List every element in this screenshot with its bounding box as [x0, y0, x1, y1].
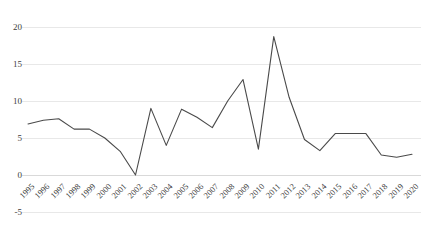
line-chart: 20151050-5 19951996199719981999200020012… — [0, 0, 425, 230]
gridlines — [22, 27, 421, 212]
y-tick-label-15: 15 — [0, 59, 22, 69]
y-tick-label-0: 0 — [0, 170, 22, 180]
y-tick-label-20: 20 — [0, 22, 22, 32]
data-series-group — [28, 37, 412, 175]
y-tick-label-5: 5 — [0, 133, 22, 143]
data-series-line — [28, 37, 412, 175]
y-tick-label-10: 10 — [0, 96, 22, 106]
